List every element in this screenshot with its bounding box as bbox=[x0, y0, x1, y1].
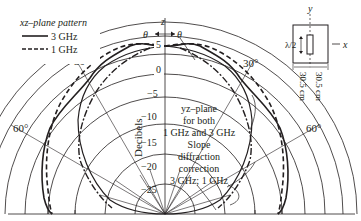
legend-item-3ghz: 3 GHz bbox=[51, 31, 78, 42]
yz-plane-annotation: yz–plane for both 1 GHz and 3 GHz bbox=[163, 103, 236, 138]
svg-text:1 GHz and 3 GHz: 1 GHz and 3 GHz bbox=[163, 127, 236, 138]
theta-right-label: θ bbox=[177, 29, 182, 40]
inset-x-label: x bbox=[342, 39, 348, 50]
legend: xz–plane pattern 3 GHz 1 GHz bbox=[18, 16, 100, 64]
legend-title: xz–plane pattern bbox=[19, 17, 87, 28]
svg-text:Slope: Slope bbox=[188, 139, 211, 150]
legend-item-1ghz: 1 GHz bbox=[51, 44, 78, 55]
svg-text:30°: 30° bbox=[243, 57, 258, 69]
inset-y-label: y bbox=[307, 3, 313, 14]
radial-tick-labels: 5 0 −5 −10 −15 −20 −25 bbox=[141, 38, 164, 195]
dipole-length-label: λ/2 bbox=[285, 40, 296, 50]
svg-text:for both: for both bbox=[183, 115, 215, 126]
svg-text:−20: −20 bbox=[141, 161, 157, 172]
svg-text:60°: 60° bbox=[306, 122, 321, 134]
svg-text:5: 5 bbox=[156, 39, 161, 50]
svg-text:−25: −25 bbox=[141, 184, 157, 195]
ground-plane-inset: y x λ/2 30.5 cm 30.5 cm bbox=[285, 3, 361, 101]
svg-text:correction: correction bbox=[179, 163, 220, 174]
inset-dim-1: 30.5 cm bbox=[298, 72, 308, 101]
inset-dim-2: 30.5 cm bbox=[314, 72, 324, 101]
svg-text:yz–plane: yz–plane bbox=[181, 103, 218, 114]
z-label: z bbox=[160, 16, 165, 27]
polar-radiation-pattern-figure: z θ θ 5 0 −5 −10 −15 −20 −25 Decibels 30… bbox=[0, 0, 361, 221]
slope-diffraction-annotation: Slope diffraction correction 3 GHz; 1 GH… bbox=[170, 139, 229, 186]
radial-axis-label: Decibels bbox=[132, 119, 144, 157]
svg-text:0: 0 bbox=[156, 64, 161, 75]
theta-left-label: θ bbox=[143, 29, 148, 40]
svg-text:−5: −5 bbox=[147, 88, 158, 99]
svg-text:60°: 60° bbox=[13, 122, 28, 134]
svg-text:3 GHz; 1 GHz: 3 GHz; 1 GHz bbox=[170, 175, 229, 186]
svg-text:diffraction: diffraction bbox=[178, 151, 220, 162]
